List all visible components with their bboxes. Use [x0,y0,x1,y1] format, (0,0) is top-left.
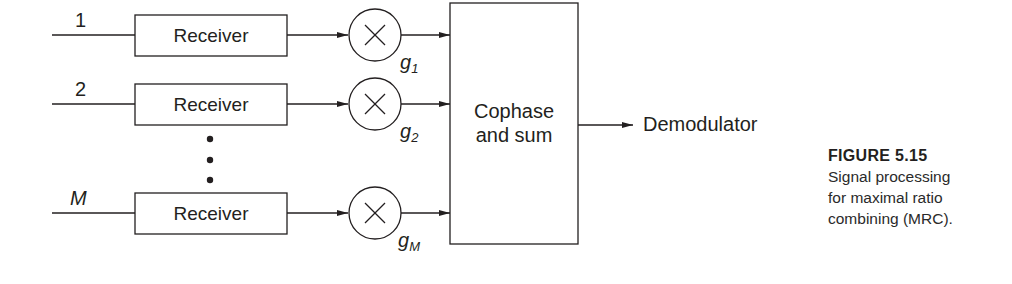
input-label-2: 2 [75,79,86,99]
caption-line-3: combining (MRC). [828,208,953,229]
caption-line-2: for maximal ratio [828,187,953,208]
gain-label-1: g1 [400,52,418,75]
figure-number: FIGURE 5.15 [828,145,953,166]
figure-caption: FIGURE 5.15 Signal processing for maxima… [828,145,953,229]
ellipsis-dots [207,136,213,183]
receiver-label-2: Receiver [135,95,287,114]
receiver-label-M: Receiver [135,204,287,223]
input-label-1: 1 [75,10,86,30]
gain-label-M: gM [398,230,420,253]
caption-line-1: Signal processing [828,166,953,187]
gain-label-2: g2 [400,121,418,144]
input-label-M: M [70,188,87,208]
receiver-label-1: Receiver [135,26,287,45]
demodulator-label: Demodulator [643,114,758,134]
combiner-label: Cophase and sum [450,99,578,147]
